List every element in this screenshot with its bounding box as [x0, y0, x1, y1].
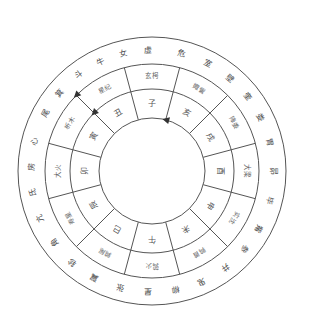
branch-label: 酉 — [216, 167, 224, 175]
station-label: 大火 — [54, 164, 61, 178]
sector-divider — [49, 143, 101, 157]
sector-divider — [166, 222, 180, 274]
station-label: 玄枵 — [145, 73, 159, 80]
mansion-label: 胃 — [264, 137, 274, 147]
inner-arrow-icon — [162, 117, 170, 124]
branch-label: 卯 — [81, 167, 89, 175]
sector-divider — [124, 222, 138, 274]
mansion-label: 虚 — [144, 46, 152, 54]
sector-divider — [166, 68, 180, 120]
inner-ring — [99, 118, 205, 224]
sector-divider — [124, 68, 138, 120]
branch-label: 子 — [148, 100, 156, 108]
mansion-label: 昴 — [269, 167, 277, 175]
mansion-label: 氐 — [29, 187, 38, 196]
sector-divider — [49, 185, 101, 199]
mansion-label: 房 — [27, 163, 35, 171]
mansion-label: 柳 — [170, 285, 179, 294]
station-label: 鹑火 — [145, 262, 159, 269]
station-label: 大梁 — [243, 164, 250, 178]
sector-divider — [203, 143, 255, 157]
mansion-label: 星 — [144, 287, 152, 295]
branch-label: 午 — [148, 235, 156, 243]
sector-divider — [203, 185, 255, 199]
